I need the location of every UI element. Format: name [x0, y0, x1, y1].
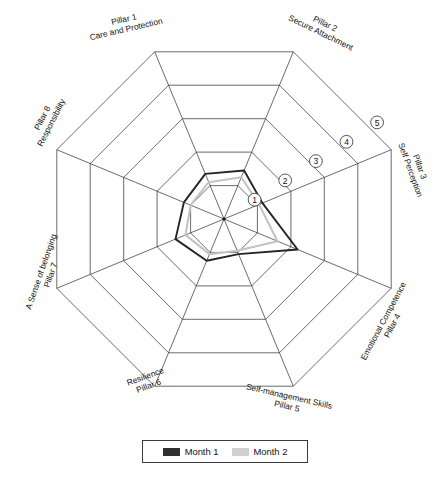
- axis-spoke-7: [57, 219, 224, 288]
- ring-label-2: 2: [283, 176, 288, 186]
- chart-legend: Month 1 Month 2: [142, 440, 308, 463]
- legend-swatch-month-2: [232, 448, 249, 456]
- series-polygon-month-1: [176, 171, 298, 261]
- radar-chart: 12345 Pillar 1 Care and Protection Pilla…: [0, 0, 446, 481]
- ring-label-4: 4: [344, 137, 349, 147]
- ring-label-3: 3: [314, 156, 319, 166]
- ring-label-5: 5: [375, 118, 380, 128]
- legend-item-month-2: Month 2: [232, 446, 288, 457]
- center-point: [222, 217, 225, 220]
- ring-label-1: 1: [252, 195, 257, 205]
- legend-label-month-1: Month 1: [185, 446, 219, 457]
- axis-spoke-2: [224, 52, 293, 219]
- axis-spoke-5: [224, 219, 293, 386]
- legend-swatch-month-1: [163, 448, 180, 456]
- legend-item-month-1: Month 1: [163, 446, 219, 457]
- axis-spoke-3: [224, 150, 391, 219]
- data-series-layer: [176, 171, 298, 261]
- legend-label-month-2: Month 2: [254, 446, 288, 457]
- axis-spoke-8: [57, 150, 224, 219]
